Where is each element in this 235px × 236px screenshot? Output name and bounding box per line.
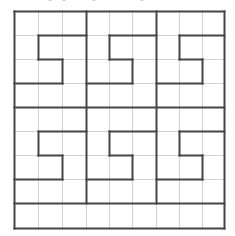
- region-grid-diagram: [0, 0, 235, 236]
- thin-gridlines: [14, 11, 225, 229]
- region-borders: [15, 12, 225, 229]
